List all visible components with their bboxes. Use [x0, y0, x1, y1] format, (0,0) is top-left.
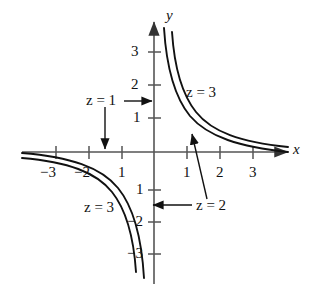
x-tick-label--1: 1 [118, 165, 126, 180]
z2-arrow-diagonal [192, 134, 207, 199]
y-tick-label--2: −2 [127, 214, 143, 229]
level-curves-figure: −3 −2 1 1 2 3 3 2 1 1 −2 −3 x y z = 1 z … [0, 0, 316, 290]
x-tick-label-3: 3 [249, 165, 257, 180]
x-tick-label-2: 2 [216, 165, 224, 180]
plot-canvas [0, 0, 316, 290]
annotation-z-equals-1: z = 1 [86, 93, 116, 108]
annotation-z-equals-2-right: z = 2 [196, 198, 226, 213]
y-tick-label-3: 3 [131, 44, 139, 59]
y-tick-label--3: −3 [127, 246, 143, 261]
y-tick-label-2: 2 [131, 77, 139, 92]
annotation-z-equals-3-lower: z = 3 [84, 200, 114, 215]
x-tick-label--3: −3 [40, 165, 56, 180]
x-axis-label: x [293, 142, 300, 157]
x-tick-label-1: 1 [183, 165, 191, 180]
level-curve-z3 [22, 28, 288, 278]
y-axis-label: y [166, 8, 173, 23]
annotation-z-equals-3-upper: z = 3 [186, 85, 216, 100]
y-tick-label-1: 1 [133, 110, 141, 125]
axis-y [148, 22, 161, 284]
x-tick-label--2: −2 [74, 165, 90, 180]
y-tick-label--1: 1 [136, 182, 144, 197]
axis-x [22, 146, 288, 159]
